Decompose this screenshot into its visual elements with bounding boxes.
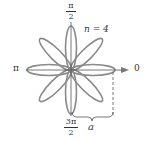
label-n-value: n = 4: [84, 24, 109, 34]
label-pi: π: [13, 63, 19, 73]
label-pi-over-2: π 2: [64, 2, 78, 21]
label-3pi-over-2-numerator: 3π: [62, 118, 80, 126]
label-pi-over-2-numerator: π: [64, 2, 78, 10]
label-pi-over-2-denominator: 2: [64, 13, 78, 21]
label-length-a: a: [88, 121, 94, 132]
label-3pi-over-2: 3π 2: [62, 118, 80, 137]
label-zero: 0: [134, 63, 140, 73]
label-3pi-over-2-denominator: 2: [62, 129, 80, 137]
